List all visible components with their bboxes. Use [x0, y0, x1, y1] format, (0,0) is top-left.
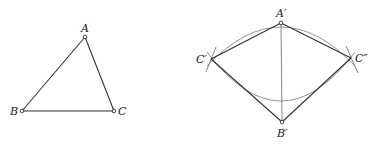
edge-ac	[85, 37, 114, 111]
triangle-abc: A B C	[9, 22, 127, 118]
point-a	[83, 35, 87, 39]
construction-figure: A′ B′ C′ C″	[196, 7, 368, 140]
label-a: A	[80, 22, 89, 35]
edge-c2-b1	[282, 58, 351, 122]
point-a1	[279, 21, 283, 25]
point-c	[112, 109, 116, 113]
point-b	[20, 109, 24, 113]
edge-a1-c2	[281, 23, 351, 58]
diagram-canvas: A B C A′ B′ C′ C″	[0, 0, 373, 147]
edge-ab	[22, 37, 85, 111]
segment-a1-b1	[281, 23, 282, 122]
label-c2: C″	[355, 52, 368, 65]
point-b1	[280, 120, 284, 124]
label-a1: A′	[275, 7, 287, 20]
label-c: C	[118, 105, 127, 118]
label-b1: B′	[276, 127, 288, 140]
edge-c1-b1	[211, 59, 282, 122]
edge-c1-a1	[211, 23, 281, 59]
label-b: B	[9, 105, 18, 118]
label-c1: C′	[196, 53, 207, 66]
